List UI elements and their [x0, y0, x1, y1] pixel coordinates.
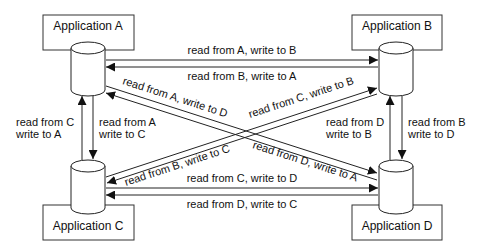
- label-c-to-d: read from C, write to D: [187, 172, 298, 184]
- label-b-to-d-line2: write to D: [407, 128, 455, 140]
- label-d-to-c: read from D, write to C: [187, 198, 298, 210]
- application-a-label: Application A: [53, 19, 122, 33]
- label-b-to-d-line1: read from B: [408, 116, 465, 128]
- application-c-label: Application C: [53, 219, 124, 233]
- replication-diagram: Application A Application B Application …: [0, 0, 482, 252]
- label-b-to-a: read from B, write to A: [188, 70, 297, 82]
- database-d-icon: [379, 160, 413, 214]
- application-d-label: Application D: [362, 219, 433, 233]
- label-c-to-a-line1: read from C: [16, 116, 74, 128]
- label-a-to-b: read from A, write to B: [188, 44, 297, 56]
- database-b-icon: [379, 42, 413, 96]
- application-b-label: Application B: [362, 19, 432, 33]
- database-c-icon: [71, 160, 105, 214]
- label-d-to-b-line2: write to B: [325, 128, 372, 140]
- label-a-to-c-line1: read from A: [99, 116, 157, 128]
- label-c-to-a-line2: write to A: [15, 128, 62, 140]
- database-a-icon: [71, 42, 105, 96]
- label-d-to-b-line1: read from D: [326, 116, 384, 128]
- label-a-to-c-line2: write to C: [98, 128, 146, 140]
